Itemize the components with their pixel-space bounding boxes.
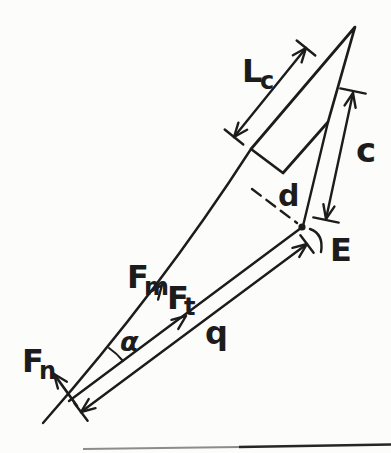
lc-length-subscript: c: [260, 67, 274, 95]
normal-force-subscript: n: [39, 357, 56, 385]
bottom-rule-left: [83, 447, 240, 449]
joint-label: E: [330, 231, 352, 269]
muscle-force-subscript: m: [144, 273, 169, 301]
tangential-force-subscript: t: [184, 293, 195, 321]
alpha-angle-label: α: [120, 326, 139, 357]
bottom-rule-right: [239, 445, 391, 448]
scanned-figure-page: F m F t F n L c c d q E α: [0, 0, 391, 453]
q-distance-label: q: [205, 314, 228, 352]
moment-arm-label: d: [278, 178, 299, 213]
q-dimension-line: [81, 244, 307, 412]
c-distance-label: c: [356, 130, 376, 170]
force-diagram: F m F t F n L c c d q E α: [0, 0, 391, 453]
normal-force-line: [54, 374, 77, 406]
